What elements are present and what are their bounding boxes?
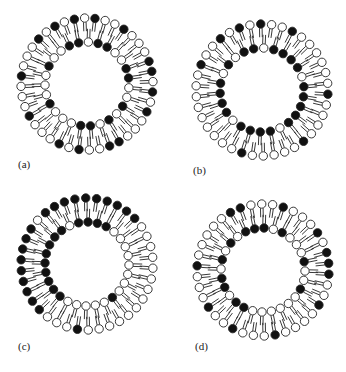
lipid-head-light: [228, 144, 236, 152]
lipid-head-dark: [102, 222, 110, 230]
lipid-head-light: [268, 201, 276, 209]
lipid-head-dark: [324, 90, 332, 98]
lipid-head-dark: [46, 100, 54, 108]
lipid-head-light: [320, 291, 328, 299]
lipid-head-light: [199, 293, 207, 301]
lipid-head-dark: [56, 292, 64, 300]
lipid-head-light: [125, 261, 133, 269]
lipid-head-dark: [216, 35, 224, 43]
lipid-head-light: [260, 44, 268, 52]
lipid-head-dark: [279, 203, 287, 211]
lipid-head-dark: [293, 63, 301, 71]
lipid-head-light: [63, 323, 71, 331]
lipid-head-light: [46, 135, 54, 143]
lipid-head-light: [84, 38, 92, 46]
lipid-head-light: [291, 293, 299, 301]
lipid-head-dark: [77, 121, 85, 129]
vesicle-d: [193, 200, 333, 340]
lipid-head-light: [319, 238, 327, 246]
lipid-head-light: [229, 116, 237, 124]
lipid-head-dark: [103, 43, 111, 51]
lipid-head-light: [307, 130, 315, 138]
lipid-head-light: [319, 111, 327, 119]
lipid-head-dark: [93, 219, 101, 227]
lipid-head-light: [276, 124, 284, 132]
lipid-head-dark: [49, 285, 57, 293]
lipid-head-light: [121, 243, 129, 251]
lipid-head-light: [96, 120, 104, 128]
lipid-head-dark: [86, 122, 94, 130]
lipid-head-dark: [120, 25, 128, 33]
lipid-head-light: [95, 145, 103, 153]
lipid-head-light: [267, 21, 275, 29]
lipid-head-dark: [260, 224, 268, 232]
lipid-head-light: [258, 308, 266, 316]
lipid-head-light: [67, 119, 75, 127]
lipid-head-dark: [45, 62, 53, 70]
lipid-head-light: [258, 200, 266, 208]
vesicle-a: [17, 14, 157, 154]
lipid-head-light: [51, 108, 59, 116]
lipid-head-light: [211, 311, 219, 319]
lipid-head-dark: [300, 257, 308, 265]
lipid-head-light: [135, 39, 143, 47]
lipid-head-dark: [299, 93, 307, 101]
lipid-head-dark: [222, 108, 230, 116]
lipid-head-dark: [218, 274, 226, 282]
lipid-head-light: [117, 56, 125, 64]
lipid-head-dark: [288, 27, 296, 35]
lipid-head-dark: [279, 49, 287, 57]
lipid-head-light: [198, 240, 206, 248]
lipid-head-dark: [287, 56, 295, 64]
lipid-head-dark: [57, 226, 65, 234]
lipid-head-dark: [216, 79, 224, 87]
inner-leaflet-a: [32, 29, 142, 139]
lipid-head-dark: [291, 111, 299, 119]
lipid-head-light: [247, 201, 255, 209]
lipid-head-light: [111, 49, 119, 57]
lipid-head-light: [301, 267, 309, 275]
lipid-head-light: [225, 291, 233, 299]
panel-label-c: (c): [18, 340, 30, 352]
lipid-head-light: [19, 62, 27, 70]
lipid-head-light: [123, 132, 131, 140]
lipid-head-light: [246, 21, 254, 29]
lipid-head-light: [298, 213, 306, 221]
lipid-head-light: [192, 93, 200, 101]
lipid-head-light: [270, 151, 278, 159]
lipid-head-dark: [105, 116, 113, 124]
lipid-head-dark: [23, 287, 31, 295]
lipid-head-dark: [299, 137, 307, 145]
lipid-head-dark: [17, 72, 25, 80]
lipid-head-light: [42, 71, 50, 79]
lipid-head-light: [101, 16, 109, 24]
lipid-head-light: [194, 103, 202, 111]
lipid-head-dark: [122, 207, 130, 215]
lipid-head-dark: [236, 204, 244, 212]
lipid-head-dark: [204, 303, 212, 311]
lipid-head-light: [146, 242, 154, 250]
lipid-head-dark: [313, 229, 321, 237]
lipid-head-light: [291, 323, 299, 331]
lipid-head-light: [100, 298, 108, 306]
lipid-head-light: [110, 228, 118, 236]
lipid-head-light: [308, 310, 316, 318]
lipid-head-light: [221, 247, 229, 255]
lipid-head-light: [84, 326, 92, 334]
lipid-head-dark: [221, 283, 229, 291]
lipid-head-dark: [34, 35, 42, 43]
lipid-head-light: [115, 317, 123, 325]
lipid-head-light: [66, 222, 74, 230]
lipid-head-light: [23, 52, 31, 60]
lipid-head-light: [18, 92, 26, 100]
lipid-head-dark: [55, 140, 63, 148]
lipid-head-dark: [118, 102, 126, 110]
lipid-head-light: [57, 47, 65, 55]
lipid-head-dark: [91, 14, 99, 22]
lipid-head-light: [28, 43, 36, 51]
lipid-head-dark: [325, 270, 333, 278]
lipid-head-dark: [115, 137, 123, 145]
lipid-head-dark: [257, 20, 265, 28]
lipid-head-light: [297, 33, 305, 41]
lipid-head-light: [149, 264, 157, 272]
